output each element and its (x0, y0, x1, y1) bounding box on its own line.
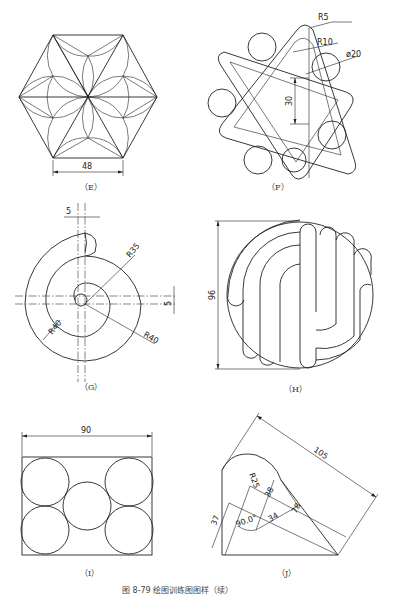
figure-label-h: （H） (284, 385, 307, 394)
dim-5-top: 5 (66, 207, 71, 216)
dim-phi20: ø20 (346, 50, 361, 59)
dim-r35: R35 (125, 241, 142, 259)
figure-e: 48 （E） (19, 35, 157, 192)
dim-r10: R10 (317, 38, 333, 47)
dim-105: 105 (312, 445, 330, 461)
figure-label-i: （I） (80, 569, 99, 578)
dim-30: 30 (285, 96, 294, 106)
figure-label-f: （F） (267, 183, 289, 192)
dim-37: 37 (209, 514, 221, 527)
figure-i: 90 （I） (21, 426, 153, 578)
figure-f: R5 R10 ø20 30 （F） (208, 13, 361, 192)
figure-g: R35 R40 R40 5 5 （G） (15, 203, 175, 392)
dim-r25: R25 (247, 472, 261, 490)
dim-r5: R5 (318, 13, 329, 22)
dim-r40-left: R40 (47, 318, 64, 336)
figure-label-e: （E） (80, 183, 102, 192)
dim-90: 90 (81, 426, 91, 435)
dim-96: 96 (208, 290, 217, 300)
figure-caption: 图 8-79 绘图训练图图样（续） (122, 585, 233, 595)
dim-5-right: 5 (164, 301, 173, 306)
dim-r40-right: R40 (142, 330, 160, 346)
figure-label-g: （G） (80, 383, 102, 392)
figure-label-j: （J） (277, 569, 296, 578)
figure-h: 96 （H） (208, 220, 373, 394)
figure-j: 105 37 R25 38 34 78 90.0° （J） (209, 413, 378, 578)
dim-48: 48 (82, 162, 92, 171)
dim-38: 38 (263, 486, 276, 499)
drawing-sheet: 48 （E） R5 R10 ø20 30 （F） (0, 0, 393, 595)
dim-angle-90: 90.0° (235, 513, 259, 529)
